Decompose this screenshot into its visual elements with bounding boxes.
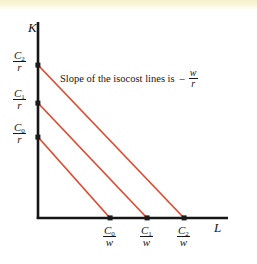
x-tick-label-c2: C2 w (177, 225, 190, 248)
y-tick-label-c2: C2 r (13, 50, 26, 73)
x-axis-label: L (214, 220, 221, 236)
x-tick-label-c1: C1 w (140, 225, 153, 248)
marker-y-c0 (35, 135, 40, 140)
isocost-line-c0 (38, 137, 110, 218)
marker-x-c2 (182, 215, 187, 220)
slope-fraction: w r (189, 68, 198, 89)
slope-annotation-text: Slope of the isocost lines is (60, 73, 175, 84)
isocost-line-c1 (38, 103, 147, 218)
isocost-diagram: K L C2 r C1 r C0 r C0 w C1 w C2 (0, 0, 257, 264)
slope-minus-sign: − (178, 73, 186, 85)
marker-x-c1 (145, 215, 150, 220)
marker-y-c1 (35, 101, 40, 106)
marker-y-c2 (35, 63, 40, 68)
y-tick-label-c0: C0 r (13, 122, 26, 145)
slope-annotation: Slope of the isocost lines is − w r (60, 68, 198, 89)
x-tick-label-c0: C0 w (103, 225, 116, 248)
marker-x-c0 (108, 215, 113, 220)
y-tick-label-c1: C1 r (13, 88, 26, 111)
y-axis-label: K (28, 20, 37, 36)
